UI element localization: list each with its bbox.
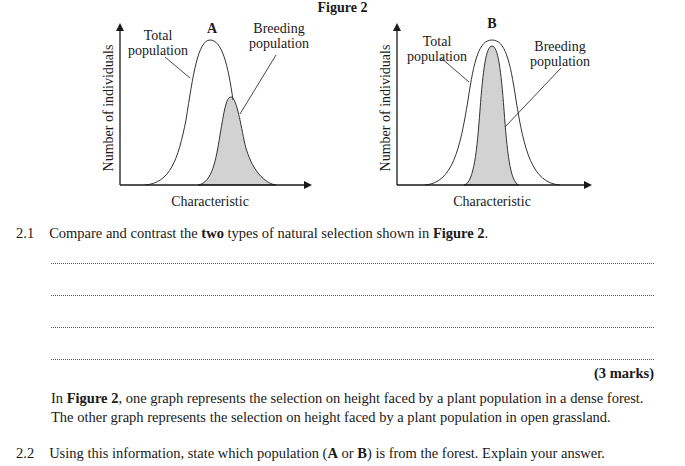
graph-b-breeding-label-1: Breeding [534, 39, 585, 54]
graph-a-total-leader [165, 57, 190, 78]
graph-b-breeding-label-2: population [530, 54, 590, 69]
graph-a-breeding-label-1: Breeding [253, 21, 304, 36]
question-text: Compare and contrast the two types of na… [49, 225, 488, 241]
question-number: 2.1 [16, 225, 34, 241]
graph-b-x-label: Characteristic [453, 194, 531, 209]
context-text: , one graph represents the selection on … [118, 390, 643, 406]
graph-b-total-label-2: population [407, 49, 467, 64]
figure-2-graphs: A Total population Breeding population N… [0, 0, 685, 215]
graph-a-total-label-1: Total [144, 28, 173, 43]
context-figure-ref: Figure 2 [67, 390, 119, 406]
question-text-part: or [338, 445, 357, 461]
option-a: A [327, 445, 337, 461]
graph-a-breeding-curve [198, 97, 276, 185]
graph-a-x-label: Characteristic [171, 194, 249, 209]
graph-a-label: A [207, 21, 218, 36]
question-text-part: types of natural selection shown in [224, 225, 433, 241]
question-text-part: . [485, 225, 489, 241]
question-text-part: ) is from the forest. Explain your answe… [367, 445, 605, 461]
question-text-figure-ref: Figure 2 [433, 225, 485, 241]
context-line-2: The other graph represents the selection… [51, 409, 611, 426]
graph-b-y-label: Number of individuals [378, 45, 393, 172]
option-b: B [357, 445, 367, 461]
marks-label: (3 marks) [594, 365, 654, 382]
graph-b-label: B [487, 16, 496, 31]
graph-a-y-label: Number of individuals [101, 45, 116, 172]
graph-a-breeding-leader [240, 55, 276, 114]
graph-b-total-label-1: Total [423, 34, 452, 49]
question-number: 2.2 [16, 445, 34, 461]
question-text-emphasis: two [201, 225, 224, 241]
question-text-part: Compare and contrast the [49, 225, 201, 241]
graph-a-total-label-2: population [128, 43, 188, 58]
graph-b-breeding-leader [505, 68, 561, 127]
graph-a: A Total population Breeding population N… [101, 21, 310, 209]
context-line-1: In Figure 2, one graph represents the se… [51, 390, 643, 407]
graph-b: B Total population Breeding population N… [378, 16, 590, 209]
question-text-part: Using this information, state which popu… [49, 445, 327, 461]
graph-b-breeding-curve [464, 46, 519, 185]
question-2-2: 2.2 Using this information, state which … [16, 444, 605, 462]
answer-line-1[interactable] [51, 263, 654, 264]
graph-a-breeding-label-2: population [249, 36, 309, 51]
answer-line-4[interactable] [51, 359, 654, 360]
answer-line-2[interactable] [51, 295, 654, 296]
context-text: In [51, 390, 67, 406]
question-2-1: 2.1 Compare and contrast the two types o… [16, 224, 488, 242]
question-text: Using this information, state which popu… [49, 445, 605, 461]
answer-line-3[interactable] [51, 327, 654, 328]
